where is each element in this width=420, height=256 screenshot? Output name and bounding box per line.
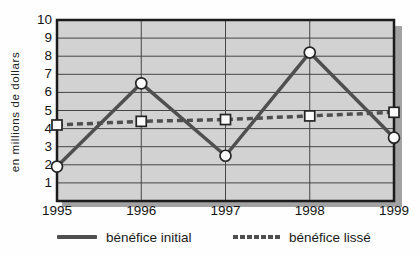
y-tick-label: 1 bbox=[26, 175, 52, 191]
x-tick-label: 1995 bbox=[35, 203, 79, 218]
dashed-line-swatch bbox=[233, 235, 280, 239]
legend-item-benefice-lisse: bénéfice lissé bbox=[233, 229, 371, 245]
data-point-square bbox=[389, 107, 399, 117]
y-tick-label: 6 bbox=[26, 84, 52, 100]
x-tick-label: 1998 bbox=[288, 203, 332, 218]
legend-item-benefice-initial: bénéfice initial bbox=[57, 229, 192, 245]
line-chart: en millions de dollars 12345678910 19951… bbox=[0, 0, 420, 256]
y-tick-label: 4 bbox=[26, 121, 52, 137]
y-tick-label: 5 bbox=[26, 103, 52, 119]
data-point-square bbox=[221, 115, 231, 125]
y-axis-title: en millions de dollars bbox=[9, 52, 21, 173]
data-point-square bbox=[136, 116, 146, 126]
data-point-circle bbox=[136, 78, 147, 89]
data-point-square bbox=[305, 111, 315, 121]
legend-label-benefice-lisse: bénéfice lissé bbox=[289, 230, 371, 245]
legend-label-benefice-initial: bénéfice initial bbox=[106, 230, 192, 245]
data-point-circle bbox=[220, 150, 231, 161]
plot-area bbox=[48, 11, 404, 211]
data-point-circle bbox=[304, 47, 315, 58]
y-tick-label: 2 bbox=[26, 157, 52, 173]
solid-line-swatch bbox=[57, 235, 97, 239]
y-tick-label: 9 bbox=[26, 30, 52, 46]
x-tick-label: 1997 bbox=[204, 203, 248, 218]
x-tick-label: 1996 bbox=[119, 203, 163, 218]
data-point-circle bbox=[52, 161, 63, 172]
y-tick-label: 7 bbox=[26, 66, 52, 82]
y-tick-label: 10 bbox=[26, 12, 52, 28]
data-point-square bbox=[52, 120, 62, 130]
y-tick-label: 8 bbox=[26, 48, 52, 64]
x-tick-label: 1999 bbox=[372, 203, 416, 218]
y-tick-label: 3 bbox=[26, 139, 52, 155]
data-point-circle bbox=[389, 132, 400, 143]
